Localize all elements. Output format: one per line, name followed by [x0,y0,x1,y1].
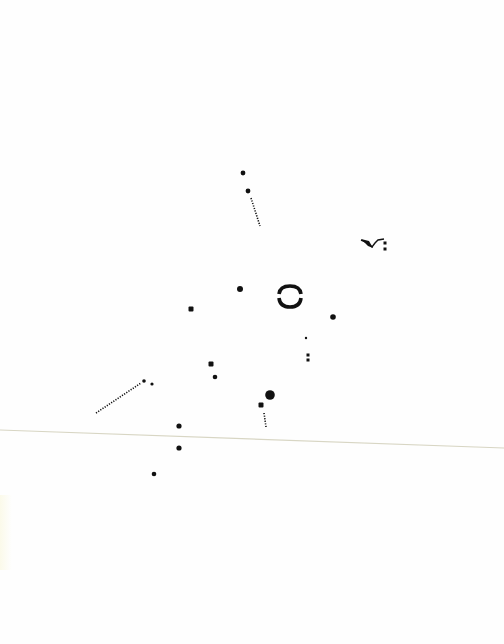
colon-right-mark [307,354,310,362]
dot-trail-left-a-mark [142,379,146,383]
dot-top-trail-head-mark [246,189,251,194]
hook-colon-dot-1 [384,248,387,251]
dot-large-mark [265,390,275,400]
dot-lower-b-mark [176,445,181,450]
ring-mark-mark-top [279,286,301,294]
square-left-mark [189,307,194,312]
dotted-trail-top-mark [251,198,260,226]
dot-trail-left-b-mark [150,382,153,385]
speck-right-mark [305,337,307,339]
artwork-canvas [0,0,504,644]
dotted-trail-lower-mark [264,413,266,427]
square-lower-mark [259,403,264,408]
dot-lower-c-mark [152,472,157,477]
fold-line-mark [0,430,504,448]
dot-right-mark [330,314,336,320]
dot-mid-mark [213,375,218,380]
scanned-page [0,0,504,644]
square-mid-mark [209,362,214,367]
hook-colon-mark [384,242,387,251]
dot-lower-a-mark [176,423,181,428]
dot-center-mark [237,286,243,292]
hook-mark-mark-head [361,239,373,248]
hook-colon-dot-0 [384,242,387,245]
colon-right-dot-0 [307,354,310,357]
colon-right-dot-1 [307,359,310,362]
dotted-trail-left-mark [96,383,141,413]
dot-top-mark [241,171,246,176]
ring-mark-mark-bottom [279,298,301,307]
